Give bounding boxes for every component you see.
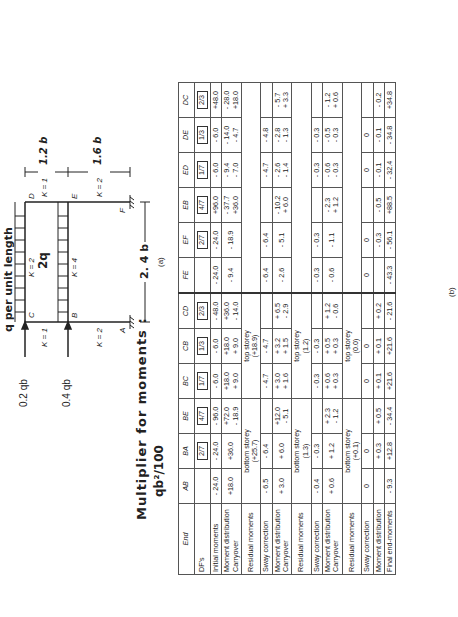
value-cell: 4/7 <box>195 188 211 223</box>
node-a: A <box>118 328 127 333</box>
value-cell: + 1.2 <box>323 434 343 469</box>
column-header: DE <box>179 118 195 153</box>
value-cell: +12.0 - 5.1 <box>272 399 292 434</box>
column-header: BE <box>179 399 195 434</box>
table-row: Initial moments- 24.0- 24.0- 96.0- 6.0- … <box>211 83 222 575</box>
value-cell: - 24.0 <box>211 223 222 258</box>
column-header: EF <box>179 223 195 258</box>
value-cell: - 4.8 <box>261 118 272 153</box>
value-cell: - 6.4 <box>261 223 272 258</box>
value-cell <box>373 469 384 504</box>
value-cell: - 6.0 <box>211 329 222 364</box>
row-label: Final end-moments <box>384 504 395 575</box>
value-cell: - 10.2 + 6.0 <box>272 188 292 223</box>
value-cell: 0 <box>362 153 373 188</box>
value-cell: - 0.3 <box>311 329 322 364</box>
load-label-top: 0.2 qb <box>18 379 29 407</box>
value-cell: + 6.0 <box>272 434 292 469</box>
value-cell: 0 <box>362 118 373 153</box>
value-cell: - 6.5 <box>261 469 272 504</box>
table-row: Residual momentsbottom storey (+0.1)top … <box>342 83 362 575</box>
df-box: 1/3 <box>197 337 207 355</box>
row-label: Moment distribution Carryover <box>222 504 242 575</box>
stiffness-de: K = 1 <box>40 178 49 197</box>
table-row: Moment distribution Carryover+18.0+36.0+… <box>222 83 242 575</box>
value-cell: + 3.2 + 1.5 <box>272 329 292 364</box>
row-label: Sway correction <box>261 504 272 575</box>
multiplier-unit: qb²/100 <box>152 445 166 497</box>
value-cell: - 32.4 <box>384 153 395 188</box>
value-cell: - 43.3 <box>384 258 395 294</box>
value-cell: + 0.3 <box>373 434 384 469</box>
stiffness-ab: K = 2 <box>95 328 104 347</box>
table-row: Sway correction00000000 <box>362 83 373 575</box>
value-cell: + 0.6 <box>323 469 343 504</box>
value-cell: 1/7 <box>195 153 211 188</box>
value-cell: +18.0 + 9.0 <box>222 329 242 364</box>
node-f: F <box>118 208 127 213</box>
value-cell: - 0.3 <box>311 434 322 469</box>
value-cell: - 14.0 - 4.7 <box>222 118 242 153</box>
table-row: Moment distribution Carryover+ 3.0+ 6.0+… <box>272 83 292 575</box>
beam-load-label: 2q <box>36 252 50 269</box>
value-cell: - 5.1 <box>272 223 292 258</box>
value-cell: 0 <box>362 469 373 504</box>
value-cell: - 9.4 <box>222 258 242 294</box>
row-label: Moment distribution Carryover <box>323 504 343 575</box>
table-row: Final end-moments- 9.3+12.8- 34.4+21.6+2… <box>384 83 395 575</box>
value-cell <box>195 469 211 504</box>
value-cell: - 24.0 <box>211 258 222 294</box>
value-cell: - 1.1 <box>323 223 343 258</box>
value-cell: +21.6 <box>384 364 395 399</box>
residual-cell <box>241 83 261 294</box>
value-cell: - 6.0 <box>211 118 222 153</box>
value-cell: - 18.9 <box>222 223 242 258</box>
row-label: Moment distribution <box>373 504 384 575</box>
column-header: FE <box>179 258 195 294</box>
value-cell: 0 <box>362 364 373 399</box>
value-cell: - 56.1 <box>384 223 395 258</box>
column-header: BC <box>179 364 195 399</box>
column-header: CB <box>179 329 195 364</box>
value-cell: 1/3 <box>195 118 211 153</box>
value-cell: - 0.1 <box>373 153 384 188</box>
table-row: Moment distribution+ 0.3+ 0.5+ 0.1+ 0.1+… <box>373 83 384 575</box>
value-cell: 1/3 <box>195 329 211 364</box>
value-cell: +48.0 <box>211 83 222 118</box>
value-cell: 0 <box>362 258 373 294</box>
value-cell: - 0.1 <box>373 118 384 153</box>
table-row: DF's2/74/71/71/32/32/74/71/71/32/3 <box>195 83 211 575</box>
value-cell <box>362 399 373 434</box>
column-header: AB <box>179 469 195 504</box>
stiffness-cd: K = 2 <box>27 258 36 277</box>
residual-cell: top storey (+18.9) <box>241 293 261 399</box>
row-label: Initial moments <box>211 504 222 575</box>
value-cell <box>311 399 322 434</box>
row-label: Sway correction <box>311 504 322 575</box>
node-e: E <box>70 194 79 199</box>
upper-height-dimension: 1.2 b <box>38 137 49 165</box>
column-header: BA <box>179 434 195 469</box>
column-header: EB <box>179 188 195 223</box>
row-label: Residual moments <box>292 504 312 575</box>
residual-cell: bottom storey (+0.1) <box>342 399 362 504</box>
value-cell <box>261 188 272 223</box>
df-box: 1/7 <box>197 372 207 390</box>
table-row: Sway correction- 6.5- 6.4- 4.7- 4.7- 6.4… <box>261 83 272 575</box>
end-header: End <box>179 504 195 575</box>
value-cell: - 48.0 <box>211 293 222 329</box>
table-row: Residual momentsbottom storey (+25.7)top… <box>241 83 261 575</box>
value-cell: - 6.4 <box>261 434 272 469</box>
value-cell: - 4.7 <box>261 329 272 364</box>
value-cell <box>311 83 322 118</box>
table-row: Sway correction- 0.4- 0.3- 0.3- 0.3- 0.3… <box>311 83 322 575</box>
value-cell: - 34.8 <box>384 118 395 153</box>
df-box: 2/3 <box>197 91 207 109</box>
table-caption: (b) <box>447 287 456 297</box>
value-cell: - 6.0 <box>211 364 222 399</box>
value-cell: 4/7 <box>195 399 211 434</box>
column-header: ED <box>179 153 195 188</box>
value-cell: - 4.7 <box>261 364 272 399</box>
row-label: Residual moments <box>241 504 261 575</box>
value-cell: 0 <box>362 329 373 364</box>
